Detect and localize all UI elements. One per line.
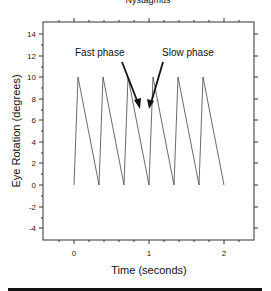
chart-title: Nystagmus [125, 0, 171, 5]
y-axis-title: Eye Rotation (degrees) [10, 74, 22, 187]
y-tick-label: 14 [27, 30, 36, 39]
nystagmus-chart: Nystagmus 14 12 [0, 0, 271, 291]
x-axis-title: Time (seconds) [111, 264, 186, 276]
fast-phase-arrow [122, 62, 141, 109]
y-tick-label: 0 [32, 181, 37, 190]
x-tick-labels: 0 1 2 [72, 249, 227, 258]
y-tick-label: -4 [29, 224, 37, 233]
y-tick-label: 12 [27, 52, 36, 61]
y-tick-label: 8 [32, 95, 37, 104]
x-tick-label: 0 [72, 249, 77, 258]
y-axis [39, 34, 258, 228]
y-tick-label: 4 [32, 138, 37, 147]
x-tick-label: 2 [222, 249, 227, 258]
y-tick-label: 10 [27, 73, 36, 82]
x-tick-label: 1 [147, 249, 152, 258]
y-tick-labels: 14 12 10 8 6 4 2 0 -2 -4 [27, 30, 36, 233]
slow-phase-label: Slow phase [162, 47, 214, 58]
fast-phase-label: Fast phase [75, 47, 125, 58]
y-tick-label: 6 [32, 116, 37, 125]
y-tick-label: -2 [29, 203, 37, 212]
y-tick-label: 2 [32, 159, 37, 168]
eye-rotation-series [74, 77, 224, 185]
